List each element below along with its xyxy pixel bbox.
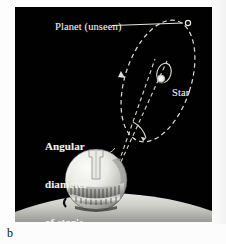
angular-diameter-label: Angular diameter of star's “wobble”	[45, 114, 90, 222]
star-label: Star	[172, 87, 189, 98]
sky-panel: Planet (unseen) Star Angular diameter of…	[15, 7, 212, 222]
angular-diameter-arc	[133, 122, 146, 138]
angular-diameter-label-line-2: diameter	[45, 178, 90, 191]
page-edge-bottom	[0, 224, 226, 244]
angular-diameter-arc-arrowhead	[141, 137, 146, 142]
angular-diameter-label-line-1: Angular	[45, 140, 90, 153]
page-edge-right	[212, 0, 226, 244]
planet-unseen-marker	[185, 20, 190, 25]
planet-unseen-label: Planet (unseen)	[55, 21, 122, 32]
figure-b-exoplanet-wobble: Planet (unseen) Star Angular diameter of…	[0, 0, 226, 244]
orbit-direction-arrow	[118, 71, 125, 78]
planet-leader-line	[112, 23, 183, 26]
angular-diameter-label-line-3: of star's	[45, 216, 90, 222]
figure-letter: b	[7, 226, 13, 241]
